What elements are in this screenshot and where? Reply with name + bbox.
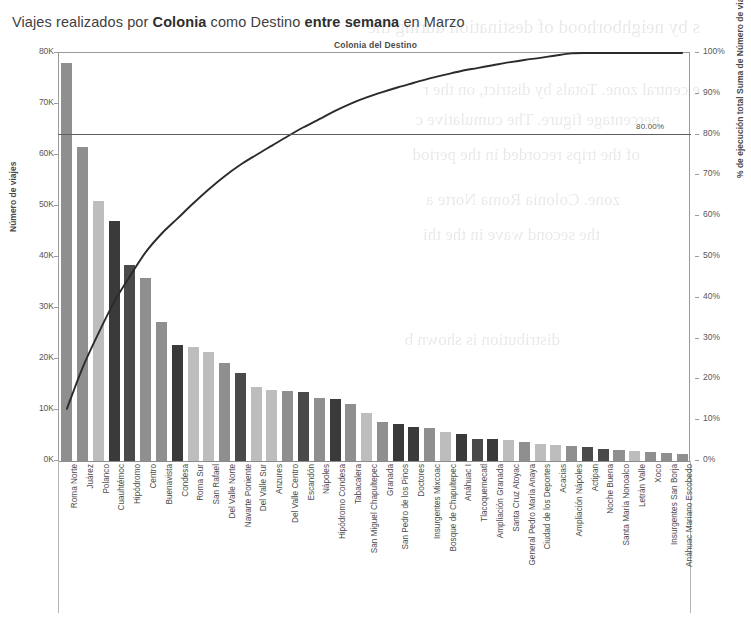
x-axis-label[interactable]: Noche Buena bbox=[606, 464, 615, 514]
y-axis-right-tick: 20% bbox=[703, 372, 720, 382]
x-axis-label[interactable]: San Miguel Chapultepec bbox=[370, 464, 379, 553]
x-axis-label[interactable]: Juárez bbox=[86, 464, 95, 489]
x-axis-label[interactable]: San Pedro de los Pinos bbox=[401, 464, 410, 550]
y-axis-right-tick: 80% bbox=[703, 128, 720, 138]
chart-title-prefix: Viajes realizados por bbox=[12, 14, 153, 30]
x-axis-label[interactable]: Del Valle Centro bbox=[291, 464, 300, 523]
y-axis-right-tick: 90% bbox=[703, 87, 720, 97]
x-axis-label[interactable]: Ciudad de los Deportes bbox=[543, 464, 552, 550]
x-axis-label[interactable]: Navarte Poniente bbox=[244, 464, 253, 527]
y-axis-left-title: Número de viajes bbox=[8, 162, 18, 232]
y-axis-left-tick: 80K bbox=[39, 46, 54, 56]
x-axis-label[interactable]: Escandón bbox=[307, 464, 316, 500]
x-axis-label[interactable]: Condesa bbox=[181, 464, 190, 497]
cumulative-percentage-curve bbox=[59, 53, 690, 461]
x-axis-label[interactable]: Letrán Valle bbox=[638, 464, 647, 507]
y-axis-left-tick-mark bbox=[54, 205, 58, 206]
y-axis-right-tick: 50% bbox=[703, 250, 720, 260]
x-axis-label[interactable]: Del Valle Norte bbox=[228, 464, 237, 518]
y-axis-left-tick: 70K bbox=[39, 97, 54, 107]
y-axis-right-tick-mark bbox=[695, 52, 699, 53]
x-axis-label[interactable]: Anáhuac I bbox=[464, 464, 473, 501]
x-axis-label[interactable]: Acacias bbox=[559, 464, 568, 493]
x-axis-label[interactable]: Bosque de Chapultepec bbox=[449, 464, 458, 551]
y-axis-right-tick: 70% bbox=[703, 168, 720, 178]
x-axis-label[interactable]: Centro bbox=[149, 464, 158, 489]
y-axis-right-tick: 40% bbox=[703, 291, 720, 301]
x-axis-label[interactable]: Hipódromo Condesa bbox=[338, 464, 347, 539]
y-axis-left-tick-mark bbox=[54, 52, 58, 53]
y-axis-left-tick: 50K bbox=[39, 199, 54, 209]
x-axis-title: Colonia del Destino bbox=[0, 40, 751, 50]
y-axis-right-tick: 0% bbox=[703, 454, 715, 464]
y-axis-right: 100%90%80%70%60%50%40%30%20%10%0% bbox=[695, 52, 735, 461]
x-axis-label[interactable]: Insurgentes Mixcoac bbox=[433, 464, 442, 539]
x-axis-label[interactable]: Del Valle Sur bbox=[259, 464, 268, 511]
x-axis-label[interactable]: Insurgentes San Borja bbox=[670, 464, 679, 545]
x-axis-label[interactable]: General Pedro María Anaya bbox=[528, 464, 537, 566]
y-axis-left-tick-mark bbox=[54, 460, 58, 461]
y-axis-right-tick-mark bbox=[695, 256, 699, 257]
x-axis-label[interactable]: Ampliación Nápoles bbox=[575, 464, 584, 536]
x-axis-label[interactable]: Tabacalera bbox=[354, 464, 363, 504]
y-axis-left-tick-mark bbox=[54, 358, 58, 359]
y-axis-left-tick: 30K bbox=[39, 301, 54, 311]
y-axis-right-tick-mark bbox=[695, 460, 699, 461]
y-axis-right-tick-mark bbox=[695, 297, 699, 298]
y-axis-left: 80K70K60K50K40K30K20K10K0K bbox=[20, 52, 54, 461]
chart-title-bold-colonia: Colonia bbox=[153, 14, 207, 30]
y-axis-left-tick: 40K bbox=[39, 250, 54, 260]
x-axis-label[interactable]: Xoco bbox=[654, 464, 663, 483]
pareto-chart: Viajes realizados por Colonia como Desti… bbox=[0, 0, 751, 633]
x-axis-label[interactable]: Tlacoquemecatl bbox=[480, 464, 489, 522]
y-axis-right-tick: 10% bbox=[703, 413, 720, 423]
reference-line-label: 80.00% bbox=[636, 122, 664, 131]
x-axis-label[interactable]: Polanco bbox=[102, 464, 111, 494]
x-axis-label[interactable]: Nápoles bbox=[322, 464, 331, 494]
x-axis-label[interactable]: Buenavista bbox=[165, 464, 174, 505]
y-axis-right-tick: 60% bbox=[703, 209, 720, 219]
x-axis-label[interactable]: Hipódromo bbox=[133, 464, 142, 504]
y-axis-left-tick: 0K bbox=[44, 454, 54, 464]
y-axis-right-tick-mark bbox=[695, 378, 699, 379]
x-axis-label[interactable]: Granada bbox=[386, 464, 395, 496]
y-axis-left-tick-mark bbox=[54, 409, 58, 410]
y-axis-right-tick-mark bbox=[695, 338, 699, 339]
x-axis-label[interactable]: Roma Norte bbox=[70, 464, 79, 508]
y-axis-left-tick: 20K bbox=[39, 352, 54, 362]
x-axis-label[interactable]: Ampliación Granada bbox=[496, 464, 505, 538]
chart-title-mid: como Destino bbox=[206, 14, 304, 30]
y-axis-left-tick: 60K bbox=[39, 148, 54, 158]
y-axis-left-tick-mark bbox=[54, 307, 58, 308]
y-axis-left-tick-mark bbox=[54, 103, 58, 104]
y-axis-right-tick-mark bbox=[695, 174, 699, 175]
chart-title-bold-entresemana: entre semana bbox=[305, 14, 400, 30]
y-axis-left-tick-mark bbox=[54, 154, 58, 155]
x-axis-label[interactable]: Santa María Nonoalco bbox=[622, 464, 631, 545]
x-axis-label[interactable]: Roma Sur bbox=[196, 464, 205, 501]
x-axis-label[interactable]: Actipan bbox=[591, 464, 600, 491]
y-axis-right-tick-mark bbox=[695, 419, 699, 420]
reference-line-80 bbox=[58, 134, 691, 135]
chart-title-suffix: en Marzo bbox=[399, 14, 464, 30]
y-axis-right-tick-mark bbox=[695, 93, 699, 94]
x-axis-label[interactable]: San Rafael bbox=[212, 464, 221, 505]
y-axis-right-tick: 100% bbox=[703, 46, 725, 56]
y-axis-left-tick: 10K bbox=[39, 403, 54, 413]
x-axis-labels: Roma NorteJuárezPolancoCuauhtémocHipódro… bbox=[59, 464, 690, 629]
y-axis-right-tick-mark bbox=[695, 215, 699, 216]
x-axis-line bbox=[58, 461, 691, 462]
y-axis-right-title: % de ejecución total Suma de Número de v… bbox=[735, 0, 745, 178]
x-axis-label[interactable]: Doctores bbox=[417, 464, 426, 497]
x-axis-label[interactable]: Santa Cruz Atoyac bbox=[512, 464, 521, 532]
x-axis-label[interactable]: Anáhuac Mariano Escobedo bbox=[685, 464, 694, 567]
chart-title: Viajes realizados por Colonia como Desti… bbox=[12, 14, 465, 30]
x-axis-label[interactable]: Cuauhtémoc bbox=[117, 464, 126, 510]
y-axis-right-tick-mark bbox=[695, 134, 699, 135]
cumulative-curve-path bbox=[67, 53, 682, 409]
y-axis-left-tick-mark bbox=[54, 256, 58, 257]
y-axis-right-tick: 30% bbox=[703, 332, 720, 342]
x-axis-label[interactable]: Anzures bbox=[275, 464, 284, 494]
